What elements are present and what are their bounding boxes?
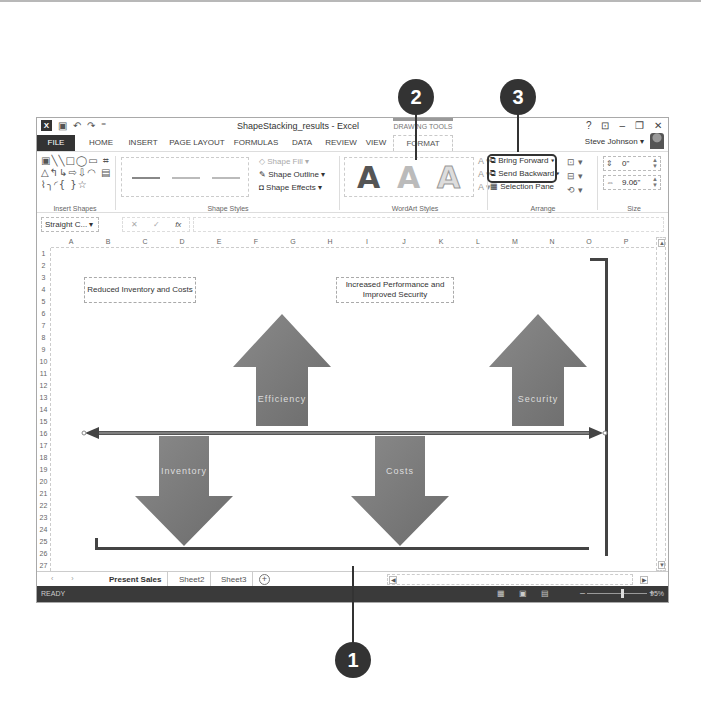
row-header[interactable]: 7 (37, 320, 50, 332)
connector-handle-left[interactable] (82, 431, 86, 435)
shape-height-field[interactable]: ⇕ 0" ▲▼ (603, 156, 661, 171)
shapes-row[interactable]: △↰↳⇨⇩◠ ▤ (41, 167, 112, 179)
row-header[interactable]: 4 (37, 284, 50, 296)
user-account[interactable]: Steve Johnson ▾ (585, 137, 644, 146)
line-style-dark[interactable] (132, 177, 160, 179)
column-header[interactable]: L (460, 238, 496, 245)
sheet-tab-sheet2[interactable]: Sheet2 (173, 572, 211, 587)
enter-icon[interactable]: ✓ (153, 218, 160, 231)
row-header[interactable]: 6 (37, 308, 50, 320)
normal-view-icon[interactable]: ▦ (497, 589, 505, 598)
insert-function-icon[interactable]: fx (175, 218, 181, 231)
zoom-slider-thumb[interactable] (621, 589, 624, 598)
row-header[interactable]: 16 (37, 428, 50, 440)
tab-file[interactable]: FILE (37, 135, 75, 151)
add-sheet-button[interactable]: + (259, 574, 270, 585)
scroll-right-icon[interactable]: ▶ (640, 576, 648, 584)
column-header[interactable]: C (127, 238, 163, 245)
align-button[interactable]: ⊡ ▾ (567, 155, 583, 169)
page-layout-view-icon[interactable]: ▣ (519, 589, 527, 598)
row-header[interactable]: 11 (37, 368, 50, 380)
shapes-row[interactable]: ⌇╮◜{ }☆ (41, 179, 112, 191)
row-header[interactable]: 9 (37, 344, 50, 356)
undo-icon[interactable]: ↶ (73, 120, 81, 131)
horizontal-scrollbar[interactable]: ◀ ▶ (387, 574, 633, 585)
up-arrow-efficiency[interactable] (233, 314, 331, 426)
column-header[interactable]: N (534, 238, 570, 245)
row-header[interactable]: 3 (37, 272, 50, 284)
height-spinner[interactable]: ▲▼ (652, 157, 658, 169)
column-header[interactable]: A (53, 238, 89, 245)
redo-icon[interactable]: ↷ (87, 120, 95, 131)
tab-home[interactable]: HOME (83, 135, 119, 151)
line-style-medium[interactable] (172, 177, 200, 179)
tab-data[interactable]: DATA (287, 135, 317, 151)
wordart-gallery[interactable]: A A A (344, 157, 474, 197)
column-header[interactable]: J (386, 238, 422, 245)
column-header[interactable]: M (497, 238, 533, 245)
up-arrow-security[interactable] (489, 314, 587, 426)
help-icon[interactable]: ? (586, 120, 592, 131)
down-arrow-inventory[interactable] (135, 436, 233, 546)
row-header[interactable]: 23 (37, 512, 50, 524)
shape-width-field[interactable]: ⇔ 9.06" ▲▼ (603, 175, 661, 190)
shapes-gallery[interactable]: ▣╲╲□◯▭ ⌗ △↰↳⇨⇩◠ ▤ ⌇╮◜{ }☆ (41, 155, 112, 191)
row-header[interactable]: 15 (37, 416, 50, 428)
column-header[interactable]: B (90, 238, 126, 245)
rotate-button[interactable]: ⟲ ▾ (567, 183, 583, 197)
shape-outline-button[interactable]: ✎ Shape Outline ▾ (259, 168, 325, 181)
avatar[interactable] (650, 133, 664, 149)
wordart-style-2[interactable]: A (397, 160, 420, 195)
vertical-scrollbar[interactable]: ▲ ▼ (656, 237, 666, 571)
connector-handle-right[interactable] (603, 431, 607, 435)
row-header[interactable]: 22 (37, 500, 50, 512)
column-header[interactable]: D (164, 238, 200, 245)
sheet-tab-present-sales[interactable]: Present Sales (103, 572, 168, 587)
page-break-view-icon[interactable]: ▤ (541, 589, 549, 598)
excel-app-icon[interactable]: X (41, 120, 52, 131)
tab-format[interactable]: FORMAT (393, 135, 453, 151)
row-header[interactable]: 8 (37, 332, 50, 344)
save-icon[interactable]: ▣ (58, 120, 67, 131)
sheet-tab-sheet3[interactable]: Sheet3 (215, 572, 253, 587)
row-header[interactable]: 13 (37, 392, 50, 404)
formula-input[interactable] (193, 217, 664, 232)
zoom-out-icon[interactable]: – (580, 588, 585, 598)
column-header[interactable]: F (238, 238, 274, 245)
column-header[interactable]: K (423, 238, 459, 245)
customize-qat-icon[interactable]: ⁼ (101, 120, 106, 131)
column-header[interactable]: P (608, 238, 644, 245)
column-header[interactable]: O (571, 238, 607, 245)
minimize-icon[interactable]: – (619, 120, 625, 131)
row-header[interactable]: 20 (37, 476, 50, 488)
tab-formulas[interactable]: FORMULAS (233, 135, 279, 151)
shapes-row[interactable]: ▣╲╲□◯▭ ⌗ (41, 155, 112, 167)
row-header[interactable]: 18 (37, 452, 50, 464)
down-arrow-costs[interactable] (351, 436, 449, 546)
shape-fill-button[interactable]: ◇ Shape Fill ▾ (259, 155, 325, 168)
ribbon-display-icon[interactable]: ⊡ (601, 120, 609, 131)
width-spinner[interactable]: ▲▼ (652, 176, 658, 188)
restore-icon[interactable]: ❐ (635, 120, 644, 131)
group-button[interactable]: ⊟ ▾ (567, 169, 583, 183)
row-header[interactable]: 26 (37, 548, 50, 560)
tab-page-layout[interactable]: PAGE LAYOUT (169, 135, 225, 151)
row-header[interactable]: 10 (37, 356, 50, 368)
line-style-light[interactable] (212, 177, 240, 179)
tab-review[interactable]: REVIEW (323, 135, 359, 151)
scroll-up-icon[interactable]: ▲ (658, 239, 665, 247)
column-header[interactable]: E (201, 238, 237, 245)
row-header[interactable]: 21 (37, 488, 50, 500)
column-header[interactable]: G (275, 238, 311, 245)
sheet-nav-arrows[interactable]: ‹ › (51, 575, 82, 582)
row-header[interactable]: 19 (37, 464, 50, 476)
row-header[interactable]: 12 (37, 380, 50, 392)
scroll-left-icon[interactable]: ◀ (389, 576, 397, 584)
tab-view[interactable]: VIEW (361, 135, 391, 151)
column-header[interactable]: H (312, 238, 348, 245)
cancel-icon[interactable]: ✕ (131, 218, 138, 231)
tab-insert[interactable]: INSERT (125, 135, 161, 151)
shape-styles-gallery[interactable] (121, 157, 249, 197)
name-box[interactable]: Straight C... ▾ (41, 217, 99, 232)
row-header[interactable]: 25 (37, 536, 50, 548)
